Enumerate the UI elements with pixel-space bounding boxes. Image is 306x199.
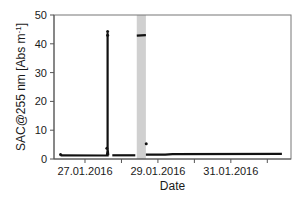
y-axis-title-main: SAC@255 nm [Abs m bbox=[14, 33, 28, 151]
x-axis-title: Date bbox=[160, 179, 186, 193]
y-axis-title: SAC@255 nm [Abs m-1] bbox=[14, 23, 28, 151]
series-line bbox=[61, 34, 109, 156]
data-point bbox=[145, 142, 148, 145]
y-tick-label: 10 bbox=[35, 124, 47, 136]
y-axis-title-end: ] bbox=[14, 23, 28, 26]
y-tick-label: 50 bbox=[35, 9, 47, 21]
x-axis: 27.01.201629.01.201631.01.2016 bbox=[54, 159, 291, 177]
plot-frame bbox=[54, 15, 291, 159]
data-point bbox=[105, 147, 108, 150]
y-tick-label: 40 bbox=[35, 38, 47, 50]
y-axis: 01020304050 bbox=[35, 9, 54, 165]
x-tick-label: 31.01.2016 bbox=[203, 165, 258, 177]
data-point bbox=[106, 34, 109, 37]
y-tick-label: 20 bbox=[35, 95, 47, 107]
x-tick-label: 27.01.2016 bbox=[57, 165, 112, 177]
x-tick-label: 29.01.2016 bbox=[130, 165, 185, 177]
sac-time-series-chart: 01020304050 27.01.201629.01.201631.01.20… bbox=[0, 0, 306, 199]
data-point bbox=[106, 30, 109, 33]
series-line bbox=[146, 154, 282, 155]
data-series-layer bbox=[59, 30, 282, 156]
data-point bbox=[59, 153, 62, 156]
y-tick-label: 0 bbox=[41, 153, 47, 165]
series-line bbox=[137, 35, 146, 36]
y-tick-label: 30 bbox=[35, 67, 47, 79]
